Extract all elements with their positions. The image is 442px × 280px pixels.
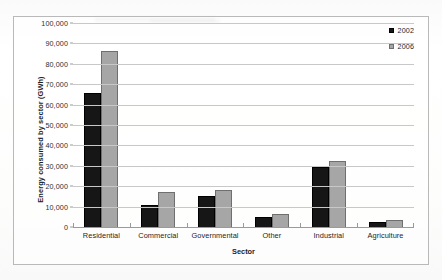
legend-label: 2006 [398, 42, 414, 51]
plot-area: 010,00020,00030,00040,00050,00060,00070,… [73, 23, 414, 227]
x-axis-tick-label: Other [243, 231, 300, 240]
bar[interactable] [272, 214, 289, 227]
gridline [73, 186, 414, 187]
y-axis-tick-mark [70, 227, 73, 228]
legend-label: 2002 [398, 26, 414, 35]
bar[interactable] [329, 161, 346, 227]
y-axis-tick-label: 10,000 [45, 202, 68, 211]
legend-item[interactable]: 2002 [389, 26, 414, 35]
x-axis-tick-label: Commercial [130, 231, 187, 240]
bar[interactable] [141, 205, 158, 227]
y-axis-tick-label: 20,000 [45, 182, 68, 191]
x-axis-tick-label: Residential [73, 231, 130, 240]
bar[interactable] [215, 190, 232, 227]
x-axis-tick-label: Governmental [187, 231, 244, 240]
gridline [73, 84, 414, 85]
legend-item[interactable]: 2006 [389, 42, 414, 51]
y-axis-tick-label: 60,000 [45, 100, 68, 109]
y-axis-tick-mark [70, 165, 73, 166]
x-axis-title: Sector [73, 247, 414, 256]
bar[interactable] [312, 167, 329, 227]
y-axis-tick-mark [70, 145, 73, 146]
gridline [73, 43, 414, 44]
gridline [73, 23, 414, 24]
bar[interactable] [386, 220, 403, 227]
y-axis-tick-label: 100,000 [41, 19, 68, 28]
x-axis-tick-label: Industrial [300, 231, 357, 240]
bar[interactable] [101, 51, 118, 227]
y-axis-tick-label: 50,000 [45, 121, 68, 130]
gridline [73, 166, 414, 167]
y-axis-tick-mark [70, 104, 73, 105]
y-axis-tick-label: 40,000 [45, 141, 68, 150]
x-axis-tick-labels: ResidentialCommercialGovernmentalOtherIn… [73, 231, 414, 240]
x-axis-tick-label: Agriculture [357, 231, 414, 240]
bar[interactable] [158, 192, 175, 227]
bar[interactable] [255, 217, 272, 227]
y-axis-title-text: Energy consumed by sector (GWh) [36, 76, 45, 202]
y-axis-tick-mark [70, 63, 73, 64]
y-axis-tick-mark [70, 125, 73, 126]
gridline [73, 125, 414, 126]
y-axis-tick-mark [70, 43, 73, 44]
gridline [73, 105, 414, 106]
y-axis-tick-label: 90,000 [45, 39, 68, 48]
bar[interactable] [198, 196, 215, 227]
chart-container: Energy consumed by sector (GWh) 010,0002… [13, 16, 429, 265]
y-axis-tick-label: 70,000 [45, 80, 68, 89]
gridline [73, 145, 414, 146]
page-caption-remnant [266, 1, 438, 10]
chart-legend: 20022006 [389, 26, 414, 51]
legend-swatch-icon [389, 44, 394, 49]
y-axis-tick-label: 0 [64, 223, 68, 232]
axis-zero-line [73, 227, 414, 228]
y-axis-tick-mark [70, 186, 73, 187]
gridline [73, 207, 414, 208]
y-axis-tick-mark [70, 84, 73, 85]
gridline [73, 64, 414, 65]
legend-swatch-icon [389, 28, 394, 33]
y-axis-tick-mark [70, 206, 73, 207]
y-axis-tick-label: 80,000 [45, 59, 68, 68]
y-axis-tick-label: 30,000 [45, 161, 68, 170]
y-axis-tick-mark [70, 23, 73, 24]
